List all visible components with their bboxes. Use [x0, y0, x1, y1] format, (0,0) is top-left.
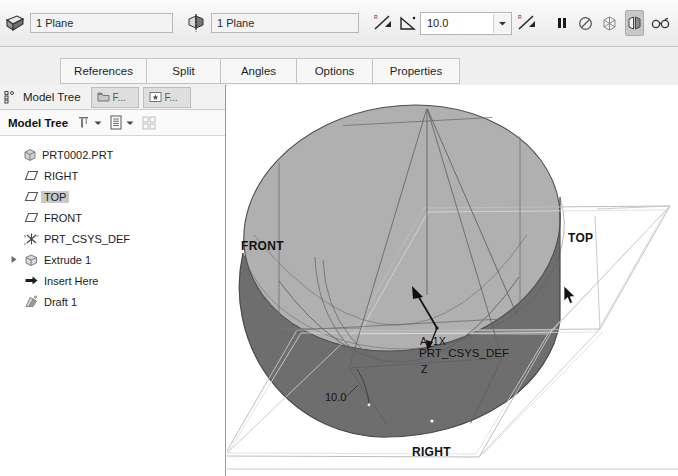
- insert-here-icon: [22, 274, 41, 287]
- tab-properties[interactable]: Properties: [372, 58, 460, 84]
- pull-direction-value[interactable]: 1 Plane: [211, 13, 359, 33]
- flip-angle-icon: R: [517, 13, 537, 33]
- navigator-tab-favorites-label: F...: [165, 92, 178, 103]
- tree-item-part-label: PRT0002.PRT: [39, 149, 116, 161]
- mouse-pointer-icon: [563, 285, 577, 307]
- extrude-feature-icon: [22, 253, 41, 267]
- chevron-down-icon: [498, 20, 507, 27]
- navigator-tab-folder-label: F...: [113, 92, 126, 103]
- flip-direction-button[interactable]: R: [372, 10, 394, 36]
- draft-feature-icon: [22, 295, 41, 309]
- draft-surfaces-collector[interactable]: 1 Plane: [30, 13, 173, 33]
- tree-item-insert-here-label: Insert Here: [41, 275, 101, 287]
- tab-split[interactable]: Split: [146, 58, 220, 84]
- no-entry-icon: [578, 16, 593, 31]
- draft-surfaces-collector-group: 1 Plane: [4, 0, 173, 46]
- tab-options[interactable]: Options: [296, 58, 372, 84]
- pull-direction-collector-group: 1 Plane: [185, 0, 359, 46]
- svg-text:z: z: [24, 241, 26, 246]
- status-bar: [227, 470, 678, 476]
- dashboard-tab-strip: References Split Angles Options Properti…: [0, 47, 678, 86]
- glasses-icon: [651, 16, 670, 30]
- label-axis-a1: A_1X: [420, 335, 446, 347]
- plane-reference-icon: [4, 13, 26, 33]
- flip-direction-icon: R: [373, 13, 393, 33]
- navigator-tab-favorites[interactable]: F...: [143, 87, 191, 108]
- label-top-plane: TOP: [568, 231, 593, 245]
- navigator-panel: Model Tree F... F...: [0, 85, 226, 476]
- feature-preview-button[interactable]: [600, 10, 619, 36]
- coordinate-system-icon: y x z: [22, 232, 41, 246]
- filter-caret-icon[interactable]: [93, 120, 103, 126]
- split-preview-icon: [626, 15, 643, 32]
- tree-item-csys-label: PRT_CSYS_DEF: [41, 233, 133, 245]
- pause-icon: [555, 16, 569, 30]
- draft-angle-dropdown-button[interactable]: [493, 14, 511, 33]
- svg-text:R: R: [518, 14, 522, 20]
- tree-item-extrude[interactable]: Extrude 1: [0, 249, 225, 270]
- navigator-tab-row: Model Tree F... F...: [0, 85, 225, 110]
- tree-item-right-label: RIGHT: [41, 170, 81, 182]
- model-tree: PRT0002.PRT RIGHT TOP: [0, 136, 225, 312]
- datum-plane-icon: [22, 190, 41, 203]
- label-axis-z: Z: [421, 363, 427, 375]
- model-geometry: [227, 85, 678, 476]
- pause-button[interactable]: [554, 10, 570, 36]
- draft-dashboard-toolbar: 1 Plane 1 Plane R: [0, 0, 678, 47]
- tree-item-top-label: TOP: [41, 191, 69, 203]
- tree-expander-collapsed[interactable]: [8, 255, 20, 264]
- tree-item-insert-here[interactable]: Insert Here: [0, 270, 225, 291]
- flip-angle-button[interactable]: R: [516, 10, 538, 36]
- label-front-plane: FRONT: [241, 239, 284, 253]
- pull-direction-icon: [185, 13, 207, 33]
- navigator-tab-folder-browser[interactable]: F...: [91, 87, 139, 108]
- dimension-point: [368, 404, 371, 407]
- tree-item-front[interactable]: FRONT: [0, 207, 225, 228]
- tree-item-top[interactable]: TOP: [0, 186, 225, 207]
- navigator-title: Model Tree: [23, 91, 81, 103]
- svg-text:x: x: [36, 233, 38, 238]
- label-csys: PRT_CSYS_DEF: [419, 347, 509, 359]
- part-icon: [20, 148, 39, 162]
- dashboard-tabs: References Split Angles Options Properti…: [60, 58, 460, 84]
- tree-item-right[interactable]: RIGHT: [0, 165, 225, 186]
- tree-settings-icon[interactable]: [109, 115, 123, 130]
- tree-settings-caret-icon[interactable]: [125, 120, 135, 126]
- resume-button[interactable]: [577, 10, 594, 36]
- tree-item-part[interactable]: PRT0002.PRT: [0, 144, 225, 165]
- tree-columns-icon[interactable]: [142, 116, 157, 130]
- label-right-plane: RIGHT: [412, 445, 451, 459]
- tab-angles[interactable]: Angles: [220, 58, 296, 84]
- preview-geometry-button[interactable]: [625, 10, 644, 36]
- datum-plane-icon: [22, 211, 41, 224]
- draft-surfaces-value[interactable]: 1 Plane: [30, 13, 173, 33]
- tree-item-draft-label: Draft 1: [41, 296, 80, 308]
- folder-browser-icon: [97, 91, 110, 103]
- tree-item-front-label: FRONT: [41, 212, 85, 224]
- tree-item-draft[interactable]: Draft 1: [0, 291, 225, 312]
- draft-angle-input-group[interactable]: 10.0: [420, 12, 512, 35]
- label-dimension-10[interactable]: 10.0: [325, 391, 346, 403]
- tab-references[interactable]: References: [60, 58, 146, 84]
- top-label-leader: [595, 216, 600, 329]
- model-tree-toolbar-label: Model Tree: [8, 117, 68, 129]
- filter-icon[interactable]: [76, 115, 91, 130]
- svg-text:y: y: [24, 233, 26, 238]
- dimension-point-2: [430, 419, 433, 422]
- favorites-icon: [149, 91, 162, 103]
- draft-angle-input[interactable]: 10.0: [421, 14, 493, 33]
- tree-item-csys[interactable]: y x z PRT_CSYS_DEF: [0, 228, 225, 249]
- pull-direction-collector[interactable]: 1 Plane: [211, 13, 359, 33]
- creo-draft-dashboard-window: 1 Plane 1 Plane R: [0, 0, 678, 476]
- draft-angle-icon: [399, 14, 417, 32]
- navigator-icon[interactable]: [4, 90, 18, 104]
- graphics-viewport[interactable]: FRONT TOP RIGHT A_1X PRT_CSYS_DEF Z 10.0: [227, 85, 678, 476]
- tree-item-extrude-label: Extrude 1: [41, 254, 94, 266]
- wireframe-preview-icon: [601, 15, 618, 32]
- model-tree-toolbar: Model Tree: [0, 110, 225, 136]
- glasses-preview-button[interactable]: [650, 10, 671, 36]
- svg-text:R: R: [374, 14, 378, 20]
- datum-plane-icon: [22, 169, 41, 182]
- datum-box-right-vert2: [548, 210, 666, 334]
